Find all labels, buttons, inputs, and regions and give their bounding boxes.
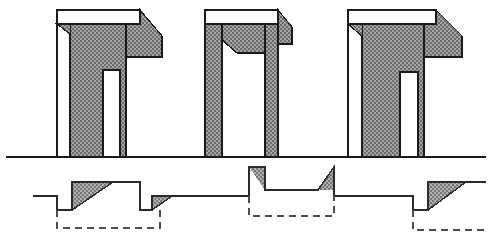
structure-2-left-leg [205,24,222,157]
figure-root [0,0,492,244]
structure-2-right-leg [265,24,278,157]
structure-3-beam [348,10,436,24]
structural-section-diagram [0,0,492,244]
structure-1-beam [57,10,140,24]
structure-2-beam [205,10,278,24]
